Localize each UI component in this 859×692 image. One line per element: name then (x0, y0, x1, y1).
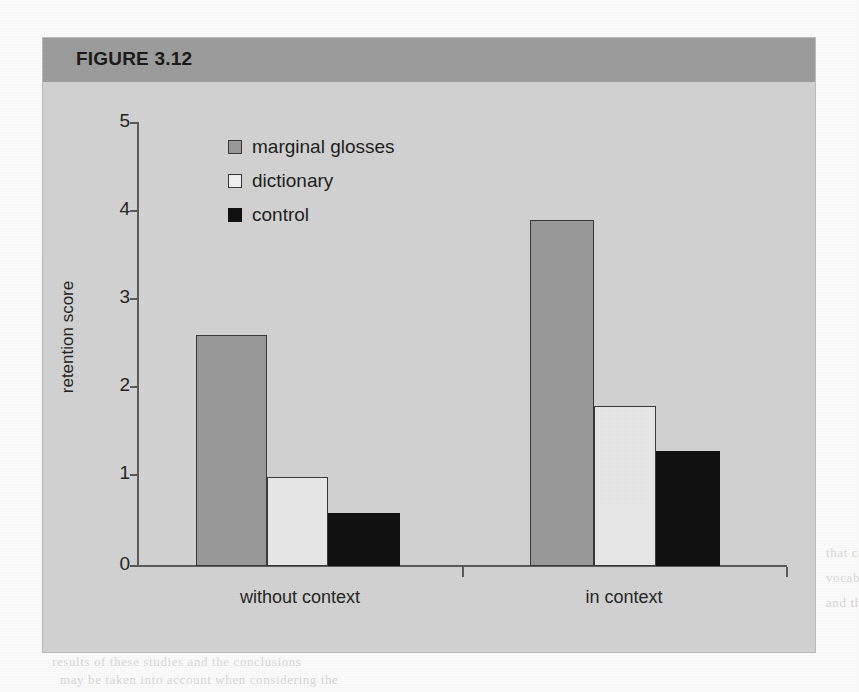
x-category-label-without-context: without context (240, 587, 360, 608)
bar-without-context-marginal-glosses (196, 335, 267, 566)
bar-chart-plot-area: retention score 5 4 3 2 1 0 without cont… (43, 82, 815, 652)
figure-panel: FIGURE 3.12 retention score 5 4 3 2 1 0 (43, 38, 815, 652)
bar-in-context-marginal-glosses (530, 220, 594, 566)
legend-item-control: control (228, 198, 395, 232)
y-tick-label: 4 (104, 198, 130, 220)
scanned-page: may be taken into account when consideri… (0, 0, 859, 692)
y-tick-mark (130, 474, 139, 476)
y-tick-label: 0 (104, 553, 130, 575)
legend-label-dictionary: dictionary (252, 170, 333, 192)
y-axis-label: retention score (58, 187, 78, 487)
bar-in-context-dictionary (594, 406, 656, 566)
bar-without-context-dictionary (267, 477, 328, 566)
legend-swatch-dictionary-icon (228, 174, 242, 188)
x-tick-end (786, 567, 788, 577)
bar-without-context-control (328, 513, 400, 566)
x-tick-separator (462, 567, 464, 577)
scan-ghost-text: vocabulary learning from context in read… (826, 570, 859, 586)
y-tick-mark (130, 565, 139, 567)
y-tick-label: 5 (104, 110, 130, 132)
legend-item-marginal-glosses: marginal glosses (228, 130, 395, 164)
legend-label-marginal-glosses: marginal glosses (252, 136, 395, 158)
y-tick-mark (130, 386, 139, 388)
scan-ghost-text: that can be drawn from them in relation … (826, 545, 859, 561)
x-category-label-in-context: in context (585, 587, 662, 608)
scan-ghost-text: results of these studies and the conclus… (52, 654, 302, 670)
y-tick-mark (130, 298, 139, 300)
legend-label-control: control (252, 204, 309, 226)
figure-title: FIGURE 3.12 (76, 48, 192, 70)
y-tick-label: 1 (104, 462, 130, 484)
scan-ghost-text: and the role of glosses and dictionaries (826, 595, 859, 611)
bar-in-context-control (656, 451, 720, 566)
legend-swatch-control-icon (228, 208, 242, 222)
scan-ghost-text: may be taken into account when consideri… (60, 672, 339, 688)
legend-item-dictionary: dictionary (228, 164, 395, 198)
y-tick-mark (130, 122, 139, 124)
y-tick-mark (130, 210, 139, 212)
chart-legend: marginal glosses dictionary control (228, 130, 395, 232)
y-axis-line (137, 122, 139, 566)
legend-swatch-marginal-glosses-icon (228, 140, 242, 154)
y-tick-label: 2 (104, 374, 130, 396)
y-tick-label: 3 (104, 286, 130, 308)
